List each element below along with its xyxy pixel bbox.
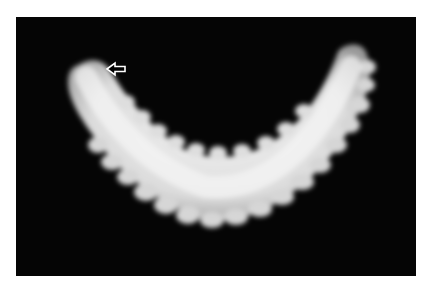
larva-illustration [16, 17, 416, 276]
larva-photo [16, 17, 416, 276]
